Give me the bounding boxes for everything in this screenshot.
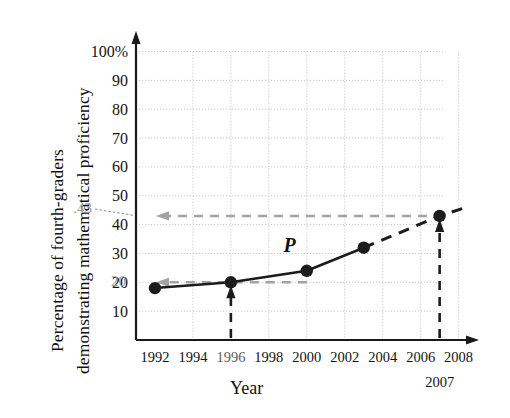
- chart-axes: [132, 31, 480, 345]
- data-point-1996[interactable]: [225, 276, 237, 288]
- y-axis-arrowhead: [132, 31, 141, 44]
- y-tick-label-100: 100%: [91, 43, 128, 60]
- x-tick-label-1992: 1992: [140, 349, 169, 365]
- y-tick-label-10: 10: [112, 303, 128, 320]
- y-tick-label-50: 50: [112, 187, 128, 204]
- annotation-year-2007: 2007: [425, 374, 454, 390]
- x-tick-label-2002: 2002: [330, 349, 359, 365]
- x-axis-arrowhead: [466, 336, 479, 345]
- guide-2007-horizontal-arrowhead: [156, 211, 169, 220]
- y-tick-label-60: 60: [112, 158, 128, 175]
- chart-figure: Percentage of fourth-graders demonstrati…: [0, 0, 510, 418]
- line-chart: 100%908070605040302010 19921994199619982…: [0, 0, 510, 418]
- y-tick-label-70: 70: [112, 130, 128, 147]
- x-tick-label-1996: 1996: [216, 349, 245, 365]
- data-point-2003[interactable]: [358, 241, 370, 253]
- annotation-value-20: 20: [111, 273, 126, 289]
- annotation-value-43: .43: [73, 200, 92, 216]
- x-tick-label-1994: 1994: [178, 349, 208, 365]
- y-tick-label-90: 90: [112, 72, 128, 89]
- x-tick-label-2006: 2006: [406, 349, 435, 365]
- reference-guides: [156, 211, 444, 338]
- series-line-dashed: [364, 207, 466, 247]
- x-axis-tick-labels: 199219941996199820002002200420062008: [140, 349, 473, 365]
- x-tick-label-2004: 2004: [368, 349, 398, 365]
- data-point-1992[interactable]: [149, 282, 161, 294]
- y-tick-label-80: 80: [112, 101, 128, 118]
- data-series: [155, 207, 466, 288]
- y-tick-label-40: 40: [112, 216, 128, 233]
- curve-label-p: P: [283, 234, 297, 256]
- y-tick-label-30: 30: [112, 245, 128, 262]
- x-tick-label-1998: 1998: [254, 349, 283, 365]
- x-tick-label-2008: 2008: [444, 349, 473, 365]
- data-point-2000[interactable]: [301, 265, 313, 277]
- data-point-2007[interactable]: [433, 210, 445, 222]
- x-tick-label-2000: 2000: [292, 349, 321, 365]
- annotation-leader-value-43: [95, 209, 134, 216]
